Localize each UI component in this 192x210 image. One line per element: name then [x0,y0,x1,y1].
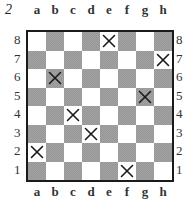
square-e6 [100,69,118,88]
file-labels-top: a b c d e f g h [28,2,172,18]
square-b6 [46,69,64,88]
square-f6 [118,69,136,88]
rank-label: 8 [176,31,183,50]
square-b1 [46,162,64,181]
x-mark-icon [30,145,44,159]
x-mark-icon [84,127,98,141]
square-d7 [82,51,100,70]
square-g7 [136,51,154,70]
rank-label: 8 [14,31,21,50]
diagram-number: 2 [5,2,12,18]
square-g4 [136,106,154,125]
file-label: d [82,184,100,200]
square-c5 [64,88,82,107]
file-label: d [82,2,100,18]
x-mark-icon [138,90,152,104]
rank-label: 2 [176,142,183,161]
square-e4 [100,106,118,125]
file-label: h [154,184,172,200]
square-a7 [28,51,46,70]
square-g5 [136,88,154,107]
square-h7 [154,51,172,70]
square-f1 [118,162,136,181]
file-label: b [46,2,64,18]
rank-label: 5 [14,87,21,106]
file-label: h [154,2,172,18]
rank-label: 4 [176,105,183,124]
file-label: c [64,2,82,18]
square-d2 [82,143,100,162]
file-label: g [136,2,154,18]
square-c3 [64,125,82,144]
file-label: e [100,184,118,200]
square-h6 [154,69,172,88]
square-c1 [64,162,82,181]
square-e7 [100,51,118,70]
file-label: a [28,184,46,200]
square-c4 [64,106,82,125]
square-e2 [100,143,118,162]
square-f4 [118,106,136,125]
square-f3 [118,125,136,144]
file-label: f [118,2,136,18]
square-b8 [46,32,64,51]
square-d3 [82,125,100,144]
square-c6 [64,69,82,88]
square-h8 [154,32,172,51]
square-h4 [154,106,172,125]
rank-label: 3 [14,124,21,143]
square-e5 [100,88,118,107]
square-b5 [46,88,64,107]
square-g8 [136,32,154,51]
rank-label: 1 [176,161,183,180]
square-c7 [64,51,82,70]
rank-label: 7 [14,50,21,69]
square-f7 [118,51,136,70]
square-d1 [82,162,100,181]
square-c8 [64,32,82,51]
square-e1 [100,162,118,181]
square-d5 [82,88,100,107]
square-a3 [28,125,46,144]
square-h3 [154,125,172,144]
square-b7 [46,51,64,70]
rank-label: 3 [176,124,183,143]
file-label: f [118,184,136,200]
square-h5 [154,88,172,107]
square-b2 [46,143,64,162]
square-b4 [46,106,64,125]
square-a5 [28,88,46,107]
chess-board [26,30,174,182]
rank-label: 6 [176,68,183,87]
rank-label: 4 [14,105,21,124]
rank-labels-right: 8 7 6 5 4 3 2 1 [176,31,183,179]
file-label: b [46,184,64,200]
square-g3 [136,125,154,144]
square-f8 [118,32,136,51]
rank-label: 5 [176,87,183,106]
file-label: e [100,2,118,18]
square-f5 [118,88,136,107]
x-mark-icon [102,34,116,48]
file-label: a [28,2,46,18]
square-a6 [28,69,46,88]
square-a2 [28,143,46,162]
square-g6 [136,69,154,88]
rank-label: 7 [176,50,183,69]
file-labels-bottom: a b c d e f g h [28,184,172,200]
square-a4 [28,106,46,125]
square-a1 [28,162,46,181]
square-d8 [82,32,100,51]
x-mark-icon [120,164,134,178]
file-label: g [136,184,154,200]
square-h1 [154,162,172,181]
rank-label: 2 [14,142,21,161]
rank-label: 1 [14,161,21,180]
square-d6 [82,69,100,88]
square-b3 [46,125,64,144]
square-e8 [100,32,118,51]
rank-label: 6 [14,68,21,87]
square-g2 [136,143,154,162]
x-mark-icon [48,71,62,85]
x-mark-icon [66,108,80,122]
